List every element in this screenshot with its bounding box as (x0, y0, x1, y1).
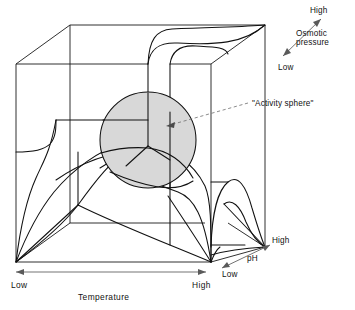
axis-ph: High Low pH (222, 236, 290, 279)
osmotic-pressure-label-line2: pressure (296, 38, 329, 47)
ph-high-label: High (272, 236, 290, 245)
surface-left-fold (16, 120, 56, 262)
surface-right-rib (224, 204, 265, 247)
osmotic-pressure-label-line1: Osmotic (296, 29, 327, 38)
activity-sphere (100, 92, 196, 188)
surface-left-rib-diagonal (16, 205, 78, 262)
ph-axis-label: pH (247, 254, 258, 263)
axis-temperature: Low High Temperature (11, 269, 211, 302)
ph-low-label: Low (222, 270, 237, 279)
osmotic-pressure-high-label: High (310, 6, 328, 15)
osmotic-pressure-low-label: Low (278, 63, 293, 72)
surface-top-ridge-outer (148, 25, 265, 64)
temperature-axis-label: Temperature (78, 292, 129, 302)
temperature-low-arrowhead (16, 269, 24, 275)
surface-left-plateau (16, 120, 56, 152)
surface-right-peak-outer (211, 180, 265, 247)
activity-sphere-label: "Activity sphere" (252, 99, 314, 108)
surface-top-ridge-inner (148, 25, 265, 64)
ph-high-arrowhead (262, 245, 270, 251)
axis-osmotic-pressure: High Low Osmotic pressure (278, 6, 329, 72)
temperature-high-arrowhead (198, 269, 206, 275)
surface-front-base-curve (78, 205, 211, 262)
cube-edge-depth-top-left (16, 25, 70, 64)
temperature-low-label: Low (11, 280, 28, 290)
temperature-high-label: High (192, 280, 211, 290)
activity-sphere-diagram: "Activity sphere" High Low Osmotic press… (0, 0, 355, 310)
surface-top-ridge-lip (170, 46, 228, 64)
figure-root: "Activity sphere" High Low Osmotic press… (0, 0, 355, 310)
